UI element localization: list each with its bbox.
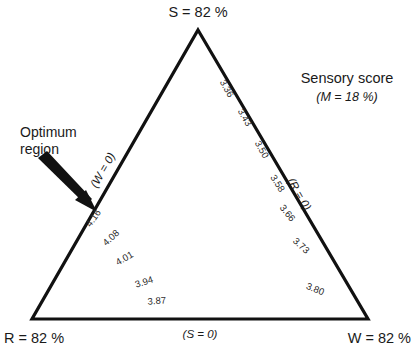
vertex-label-bottom-right: W = 82 % — [348, 330, 411, 346]
optimum-annotation-line1: Optimum — [20, 124, 77, 140]
optimum-annotation-line2: region — [20, 141, 59, 157]
chart-title: Sensory score — [301, 70, 394, 86]
ternary-contour-figure: S = 82 % R = 82 % W = 82 % (W = 0) (R = … — [0, 0, 415, 352]
chart-subtitle: (M = 18 %) — [316, 90, 377, 104]
contour-label-3.87: 3.87 — [147, 294, 166, 306]
edge-label-bottom: (S = 0) — [183, 328, 218, 340]
ternary-plot-svg: S = 82 % R = 82 % W = 82 % (W = 0) (R = … — [0, 0, 415, 352]
vertex-label-bottom-left: R = 82 % — [4, 330, 64, 346]
vertex-label-top: S = 82 % — [168, 4, 227, 20]
